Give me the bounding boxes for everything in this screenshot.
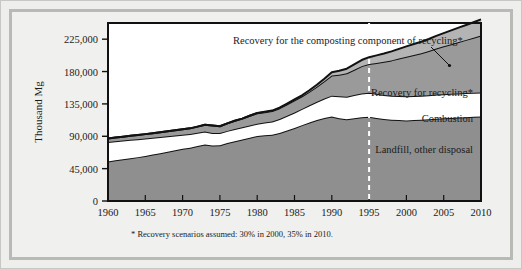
stacked-area-chart: 045,00090,000135,000180,000225,000 19601… xyxy=(1,1,522,269)
y-tick-label: 0 xyxy=(93,196,98,207)
x-tick-label: 1985 xyxy=(284,207,305,218)
y-tick-label: 135,000 xyxy=(64,99,98,110)
x-tick-label: 1965 xyxy=(135,207,156,218)
y-tick-label: 45,000 xyxy=(69,164,98,175)
figure-container: 045,00090,000135,000180,000225,000 19601… xyxy=(0,0,522,269)
y-axis: 045,00090,000135,000180,000225,000 xyxy=(64,34,108,207)
x-tick-label: 2000 xyxy=(396,207,417,218)
x-tick-label: 1970 xyxy=(172,207,193,218)
x-tick-label: 1975 xyxy=(209,207,230,218)
y-tick-label: 180,000 xyxy=(64,67,98,78)
y-axis-title: Thousand Mg xyxy=(32,81,44,143)
x-tick-label: 2005 xyxy=(433,207,454,218)
label-combustion: Combustion xyxy=(422,113,474,124)
x-tick-label: 1990 xyxy=(321,207,342,218)
label-recycling: Recovery for recycling* xyxy=(371,87,473,98)
label-landfill: Landfill, other disposal xyxy=(375,144,473,155)
y-tick-label: 225,000 xyxy=(64,34,98,45)
x-tick-label: 2010 xyxy=(471,207,492,218)
x-tick-label: 1960 xyxy=(98,207,119,218)
footnote-text: * Recovery scenarios assumed: 30% in 200… xyxy=(131,229,333,239)
y-tick-label: 90,000 xyxy=(69,131,98,142)
x-tick-label: 1995 xyxy=(359,207,380,218)
x-tick-label: 1980 xyxy=(247,207,268,218)
label-composting: Recovery for the composting component of… xyxy=(233,35,463,46)
